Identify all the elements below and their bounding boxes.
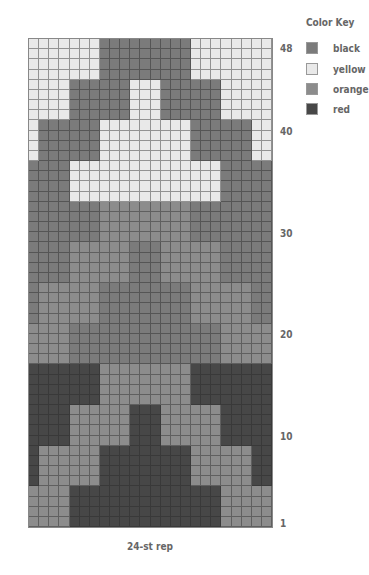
chart-cell	[201, 192, 211, 202]
chart-cell	[130, 466, 140, 476]
chart-cell	[161, 303, 171, 313]
chart-cell	[151, 90, 161, 100]
chart-cell	[151, 70, 161, 80]
chart-cell	[181, 354, 191, 364]
chart-cell	[161, 100, 171, 110]
chart-cell	[110, 466, 120, 476]
chart-cell	[201, 242, 211, 252]
chart-cell	[110, 263, 120, 273]
chart-cell	[90, 242, 100, 252]
chart-cell	[80, 90, 90, 100]
chart-cell	[252, 273, 262, 283]
chart-cell	[211, 151, 221, 161]
colorwork-chart-grid	[28, 38, 273, 528]
chart-cell	[171, 385, 181, 395]
chart-cell	[140, 314, 150, 324]
chart-cell	[130, 212, 140, 222]
chart-cell	[242, 507, 252, 517]
chart-cell	[211, 242, 221, 252]
chart-cell	[191, 192, 201, 202]
chart-cell	[211, 385, 221, 395]
chart-cell	[59, 303, 69, 313]
chart-cell	[211, 273, 221, 283]
chart-cell	[140, 253, 150, 263]
chart-cell	[171, 80, 181, 90]
chart-cell	[110, 151, 120, 161]
chart-cell	[181, 364, 191, 374]
chart-cell	[181, 100, 191, 110]
chart-cell	[39, 507, 49, 517]
chart-cell	[201, 202, 211, 212]
chart-cell	[171, 90, 181, 100]
chart-cell	[211, 446, 221, 456]
chart-cell	[49, 517, 59, 527]
chart-cell	[140, 273, 150, 283]
chart-cell	[90, 425, 100, 435]
chart-cell	[120, 395, 130, 405]
chart-cell	[100, 324, 110, 334]
chart-cell	[49, 466, 59, 476]
chart-cell	[242, 212, 252, 222]
key-item-yellow: yellow	[306, 63, 366, 75]
chart-cell	[130, 161, 140, 171]
chart-cell	[262, 171, 272, 181]
chart-cell	[191, 334, 201, 344]
chart-cell	[211, 334, 221, 344]
chart-cell	[201, 273, 211, 283]
chart-cell	[221, 80, 231, 90]
chart-cell	[29, 90, 39, 100]
chart-cell	[100, 385, 110, 395]
chart-cell	[181, 90, 191, 100]
chart-cell	[140, 181, 150, 191]
chart-cell	[130, 507, 140, 517]
chart-cell	[201, 100, 211, 110]
chart-cell	[49, 385, 59, 395]
chart-cell	[171, 131, 181, 141]
swatch-yellow-icon	[306, 63, 318, 75]
chart-cell	[211, 303, 221, 313]
chart-cell	[242, 344, 252, 354]
chart-cell	[120, 497, 130, 507]
chart-cell	[181, 476, 191, 486]
chart-cell	[59, 232, 69, 242]
chart-cell	[110, 212, 120, 222]
chart-cell	[161, 90, 171, 100]
chart-cell	[252, 59, 262, 69]
chart-cell	[130, 405, 140, 415]
chart-cell	[100, 415, 110, 425]
chart-cell	[130, 354, 140, 364]
chart-cell	[120, 120, 130, 130]
chart-cell	[70, 436, 80, 446]
chart-cell	[262, 324, 272, 334]
chart-cell	[29, 283, 39, 293]
chart-cell	[140, 405, 150, 415]
key-label: black	[333, 43, 360, 54]
chart-cell	[201, 364, 211, 374]
chart-cell	[252, 171, 262, 181]
chart-cell	[70, 446, 80, 456]
chart-cell	[262, 364, 272, 374]
chart-cell	[49, 49, 59, 59]
chart-cell	[242, 283, 252, 293]
chart-cell	[262, 344, 272, 354]
chart-cell	[90, 39, 100, 49]
chart-cell	[181, 181, 191, 191]
chart-cell	[120, 212, 130, 222]
chart-cell	[120, 222, 130, 232]
chart-cell	[211, 405, 221, 415]
chart-cell	[100, 202, 110, 212]
chart-cell	[49, 324, 59, 334]
chart-cell	[70, 59, 80, 69]
chart-cell	[181, 405, 191, 415]
chart-cell	[221, 456, 231, 466]
chart-cell	[171, 486, 181, 496]
chart-cell	[151, 486, 161, 496]
chart-cell	[140, 49, 150, 59]
chart-cell	[140, 303, 150, 313]
chart-cell	[39, 49, 49, 59]
chart-cell	[262, 415, 272, 425]
chart-cell	[29, 497, 39, 507]
chart-cell	[191, 141, 201, 151]
chart-cell	[80, 263, 90, 273]
chart-cell	[90, 110, 100, 120]
